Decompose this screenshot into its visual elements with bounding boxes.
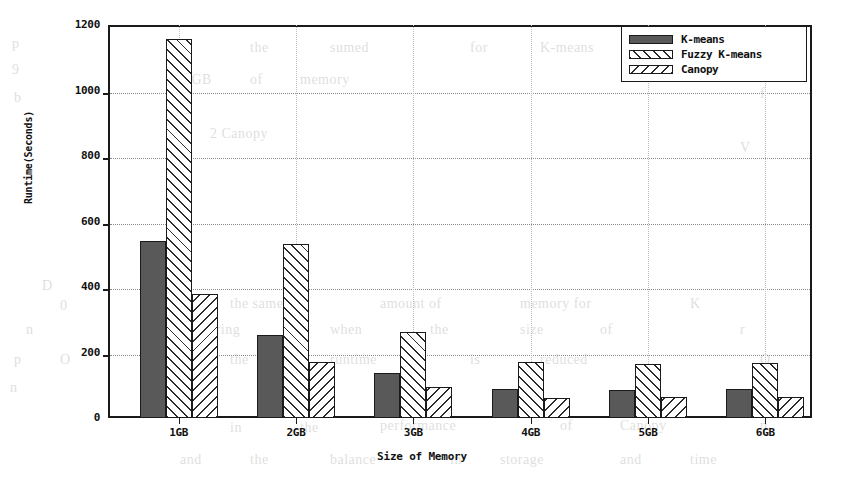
x-axis-tick	[413, 418, 414, 424]
vertical-guide	[765, 25, 766, 418]
legend-item-fuzzy-k-means: Fuzzy K-means	[629, 47, 800, 61]
bar-series-layer	[108, 25, 812, 418]
bar-fuzzy-k-means-2gb	[283, 244, 309, 418]
y-axis-tick-label: 1000	[40, 84, 100, 97]
bar-canopy-2gb	[309, 362, 335, 418]
bar-canopy-5gb	[661, 397, 687, 418]
y-axis-tick-label: 600	[40, 215, 100, 228]
bar-fuzzy-k-means-6gb	[752, 363, 778, 418]
bar-fuzzy-k-means-4gb	[518, 362, 544, 418]
x-axis-tick	[296, 418, 297, 424]
vertical-guide	[531, 25, 532, 418]
bar-fuzzy-k-means-5gb	[635, 364, 661, 418]
vertical-guide	[648, 25, 649, 418]
bar-canopy-3gb	[426, 387, 452, 418]
legend-swatch-canopy-icon	[629, 65, 673, 74]
bar-k-means-3gb	[374, 373, 400, 418]
bar-canopy-4gb	[544, 398, 570, 418]
bar-chart-figure: Runtime(Seconds) 020040060080010001200 1…	[0, 0, 844, 478]
bar-fuzzy-k-means-3gb	[400, 332, 426, 418]
legend-label-fuzzy-k-means: Fuzzy K-means	[681, 48, 762, 61]
x-axis-tick	[531, 418, 532, 424]
x-axis-tick	[179, 418, 180, 424]
y-axis-tick-label: 400	[40, 280, 100, 293]
bar-k-means-5gb	[609, 390, 635, 418]
bar-k-means-1gb	[140, 241, 166, 418]
x-axis-tick-label: 3GB	[373, 426, 453, 439]
bar-k-means-4gb	[492, 389, 518, 418]
bar-fuzzy-k-means-1gb	[166, 39, 192, 418]
bar-canopy-6gb	[778, 397, 804, 418]
y-axis-tick-label: 1200	[40, 18, 100, 31]
y-axis-tick-label: 0	[40, 411, 100, 424]
legend-swatch-fuzzy-k-means-icon	[629, 50, 673, 59]
x-axis-tick-label: 4GB	[491, 426, 571, 439]
legend-label-canopy: Canopy	[681, 63, 718, 76]
x-axis-tick-label: 1GB	[139, 426, 219, 439]
x-axis-title: Size of Memory	[0, 450, 844, 463]
y-axis-tick-label: 200	[40, 346, 100, 359]
chart-legend: K-means Fuzzy K-means Canopy	[621, 26, 807, 82]
bar-canopy-1gb	[192, 294, 218, 418]
bar-k-means-6gb	[726, 389, 752, 418]
x-axis-tick-label: 5GB	[608, 426, 688, 439]
legend-item-k-means: K-means	[629, 32, 800, 46]
x-axis-tick-label: 6GB	[725, 426, 805, 439]
y-axis-title: Runtime(Seconds)	[23, 78, 34, 238]
x-axis-tick-label: 2GB	[256, 426, 336, 439]
x-axis-tick	[648, 418, 649, 424]
bar-k-means-2gb	[257, 335, 283, 419]
legend-label-k-means: K-means	[681, 33, 725, 46]
x-axis-tick	[765, 418, 766, 424]
legend-item-canopy: Canopy	[629, 62, 800, 76]
y-axis-tick-label: 800	[40, 149, 100, 162]
legend-swatch-k-means-icon	[629, 35, 673, 44]
